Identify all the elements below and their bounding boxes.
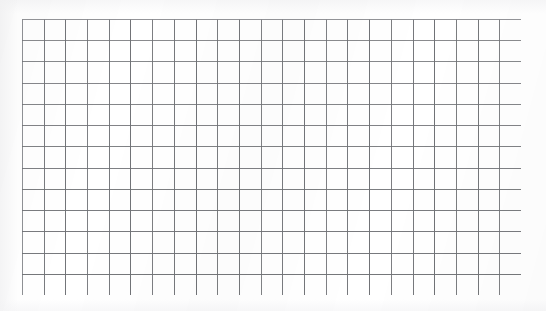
grid-sheet[interactable]: [22, 19, 521, 295]
grid-lines-svg: [22, 19, 521, 295]
page-root: [0, 0, 546, 311]
